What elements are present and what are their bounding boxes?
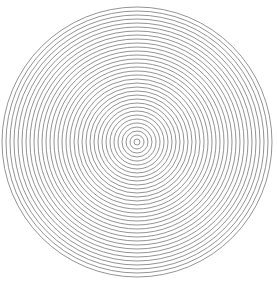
ring — [94, 99, 180, 185]
ring — [38, 43, 236, 241]
ring — [10, 15, 264, 269]
ring — [82, 87, 192, 197]
ring — [62, 67, 212, 217]
ring — [102, 107, 172, 177]
ring — [130, 135, 144, 149]
ring — [34, 39, 240, 245]
ring — [22, 27, 252, 257]
ring — [26, 31, 248, 253]
ring — [134, 139, 140, 145]
ring — [86, 91, 188, 193]
ring — [42, 47, 232, 237]
ring — [126, 131, 148, 153]
ring — [118, 123, 156, 161]
ring — [14, 19, 260, 265]
concentric-circles-figure — [0, 0, 277, 284]
ring — [54, 59, 220, 225]
ring — [46, 51, 228, 233]
ring — [78, 83, 196, 201]
ring — [114, 119, 160, 165]
ring — [74, 79, 200, 205]
ring — [90, 95, 184, 189]
ring — [106, 111, 168, 173]
ring — [50, 55, 224, 229]
ring — [66, 71, 208, 213]
ring — [122, 127, 152, 157]
ring — [6, 11, 268, 273]
ring — [2, 7, 272, 277]
